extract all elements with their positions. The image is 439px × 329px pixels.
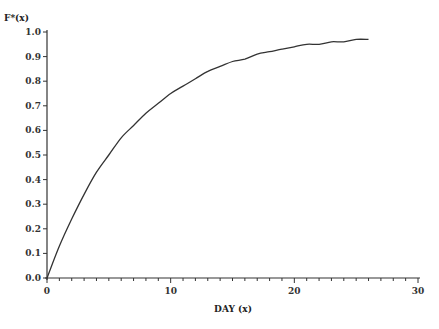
y-tick-label: 0.6 [25, 125, 41, 135]
y-tick-label: 0.8 [25, 76, 41, 86]
y-tick-label: 0.5 [25, 150, 41, 160]
x-tick-label: 0 [44, 286, 50, 296]
y-tick-label: 1.0 [25, 27, 41, 37]
y-axis-title: F*(x) [4, 13, 29, 23]
y-axis: 0.00.10.20.30.40.50.60.70.80.91.0 [25, 27, 47, 283]
y-tick-label: 0.0 [25, 273, 41, 283]
y-tick-label: 0.2 [25, 224, 41, 234]
y-tick-label: 0.7 [25, 101, 41, 111]
cdf-line-chart: 0.00.10.20.30.40.50.60.70.80.91.0 010203… [0, 0, 439, 329]
y-tick-label: 0.9 [25, 52, 41, 62]
x-tick-label: 30 [412, 286, 425, 296]
cdf-curve [47, 39, 369, 278]
x-tick-label: 10 [164, 286, 177, 296]
y-tick-label: 0.3 [25, 199, 41, 209]
x-axis-title: DAY (x) [214, 304, 252, 314]
y-tick-label: 0.1 [25, 248, 41, 258]
y-tick-label: 0.4 [25, 175, 41, 185]
x-tick-label: 20 [288, 286, 301, 296]
x-axis: 0102030 [44, 278, 424, 296]
plot-area [47, 39, 369, 278]
